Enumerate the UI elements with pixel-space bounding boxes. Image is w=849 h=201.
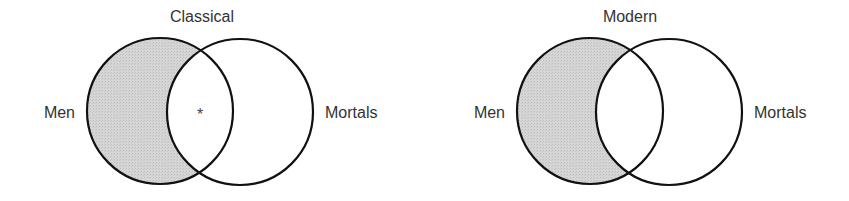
- mortals-label: Mortals: [754, 104, 806, 121]
- mortals-label: Mortals: [325, 104, 377, 121]
- diagram-modern: Modern Men Mortals: [474, 8, 807, 195]
- diagram-title: Modern: [603, 8, 657, 25]
- diagram-classical: Classical Men Mortals *: [44, 8, 378, 195]
- men-label: Men: [474, 104, 505, 121]
- existence-marker-asterisk: *: [197, 106, 203, 123]
- venn-diagrams: Classical Men Mortals * Modern Men Morta…: [0, 0, 849, 201]
- diagram-title: Classical: [170, 8, 234, 25]
- men-label: Men: [44, 104, 75, 121]
- shaded-men-only-region: [80, 30, 250, 195]
